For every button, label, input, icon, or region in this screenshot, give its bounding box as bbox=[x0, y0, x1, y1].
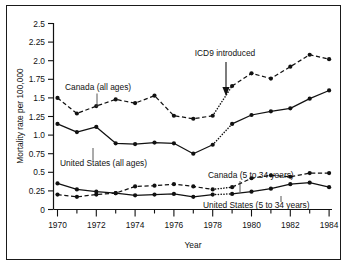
x-tick-label: 1970 bbox=[48, 220, 67, 230]
data-point-marker bbox=[230, 122, 234, 126]
x-tick-label: 1972 bbox=[87, 220, 106, 230]
data-point-marker bbox=[308, 97, 312, 101]
icd9-annotation-label: ICD9 introduced bbox=[195, 48, 256, 58]
data-point-marker bbox=[172, 182, 176, 186]
united-states-all-ages-label: United States (all ages) bbox=[60, 158, 147, 168]
y-tick-label: 0.75 bbox=[29, 149, 46, 159]
y-tick-label: 0.25 bbox=[29, 186, 46, 196]
series-path bbox=[232, 183, 329, 194]
data-point-marker bbox=[172, 114, 176, 118]
x-tick-label: 1976 bbox=[165, 220, 184, 230]
data-point-marker bbox=[94, 190, 98, 194]
data-point-marker bbox=[191, 152, 195, 156]
y-tick-label: 1.0 bbox=[33, 130, 45, 140]
y-tick-label: 1.75 bbox=[29, 74, 46, 84]
data-point-marker bbox=[288, 65, 292, 69]
y-tick-label: 1.5 bbox=[33, 93, 45, 103]
chart-canvas: 2.5 2.25 2.0 1.75 1.5 1.25 1.0 0.75 0.5 … bbox=[0, 0, 347, 267]
series-break-path bbox=[213, 187, 232, 189]
data-point-marker bbox=[75, 130, 79, 134]
data-point-marker bbox=[75, 195, 79, 199]
data-point-marker bbox=[308, 53, 312, 57]
data-point-marker bbox=[211, 193, 215, 197]
data-point-marker bbox=[269, 76, 273, 80]
data-point-marker bbox=[249, 71, 253, 75]
x-axis-ticks bbox=[58, 210, 330, 217]
x-tick-label: 1978 bbox=[203, 220, 222, 230]
data-point-marker bbox=[55, 193, 59, 197]
data-point-marker bbox=[133, 101, 137, 105]
data-point-marker bbox=[152, 94, 156, 98]
data-point-marker bbox=[152, 140, 156, 144]
y-axis-tick-labels: 2.5 2.25 2.0 1.75 1.5 1.25 1.0 0.75 0.5 … bbox=[29, 19, 46, 215]
x-axis-title: Year bbox=[185, 240, 202, 250]
data-point-marker bbox=[191, 117, 195, 121]
data-point-marker bbox=[94, 125, 98, 129]
series-break-path bbox=[213, 194, 232, 195]
data-point-marker bbox=[152, 184, 156, 188]
data-point-marker bbox=[269, 187, 273, 191]
label-united-states-5-to-34: United States (5 to 34 years) bbox=[203, 196, 310, 210]
data-point-marker bbox=[327, 57, 331, 61]
data-point-marker bbox=[94, 104, 98, 108]
data-point-marker bbox=[75, 187, 79, 191]
series-path bbox=[232, 90, 329, 123]
icd9-annotation: ICD9 introduced bbox=[195, 48, 256, 96]
data-point-marker bbox=[230, 185, 234, 189]
data-point-marker bbox=[327, 88, 331, 92]
label-canada-all-ages: Canada (all ages) bbox=[65, 82, 131, 107]
y-axis-title: Mortality rate per 100,000 bbox=[15, 68, 25, 164]
data-point-marker bbox=[211, 143, 215, 147]
data-point-marker bbox=[114, 97, 118, 101]
data-point-marker bbox=[230, 84, 234, 88]
data-point-marker bbox=[172, 141, 176, 145]
data-point-marker bbox=[55, 122, 59, 126]
data-point-marker bbox=[211, 114, 215, 118]
data-point-marker bbox=[230, 192, 234, 196]
series-break-path bbox=[213, 124, 232, 145]
data-point-marker bbox=[211, 187, 215, 191]
y-tick-label: 2.25 bbox=[29, 37, 46, 47]
y-tick-label: 2.0 bbox=[33, 56, 45, 66]
y-tick-label: 2.5 bbox=[33, 19, 45, 29]
icd9-arrow-head-icon bbox=[222, 87, 229, 96]
x-tick-label: 1982 bbox=[281, 220, 300, 230]
data-point-marker bbox=[152, 193, 156, 197]
data-point-marker bbox=[114, 191, 118, 195]
data-point-marker bbox=[288, 106, 292, 110]
data-point-marker bbox=[288, 182, 292, 186]
data-point-marker bbox=[269, 109, 273, 113]
data-point-marker bbox=[55, 96, 59, 100]
data-point-marker bbox=[191, 184, 195, 188]
y-tick-label: 1.25 bbox=[29, 112, 46, 122]
series-path bbox=[58, 124, 213, 154]
data-point-marker bbox=[327, 171, 331, 175]
series-path bbox=[232, 55, 329, 86]
x-tick-label: 1974 bbox=[126, 220, 145, 230]
series-path bbox=[58, 96, 213, 119]
data-point-marker bbox=[133, 142, 137, 146]
data-point-marker bbox=[172, 192, 176, 196]
y-axis-ticks bbox=[48, 24, 54, 210]
data-point-marker bbox=[133, 184, 137, 188]
y-tick-label: 0 bbox=[40, 205, 45, 215]
data-point-marker bbox=[133, 193, 137, 197]
x-tick-label: 1980 bbox=[242, 220, 261, 230]
data-point-marker bbox=[191, 195, 195, 199]
series-break-path bbox=[213, 86, 232, 116]
data-point-marker bbox=[249, 113, 253, 117]
x-tick-label: 1984 bbox=[320, 220, 339, 230]
data-point-marker bbox=[75, 111, 79, 115]
label-united-states-all-ages: United States (all ages) bbox=[60, 148, 147, 168]
x-axis-tick-labels: 1970 1972 1974 1976 1978 1980 1982 1984 bbox=[48, 220, 339, 230]
data-point-marker bbox=[114, 141, 118, 145]
data-point-marker bbox=[308, 181, 312, 185]
data-point-marker bbox=[249, 190, 253, 194]
data-point-marker bbox=[55, 181, 59, 185]
canada-5-to-34-label: Canada (5 to 34 years) bbox=[208, 170, 294, 180]
canada-all-ages-label: Canada (all ages) bbox=[65, 82, 131, 92]
y-tick-label: 0.5 bbox=[33, 167, 45, 177]
united-states-5-to-34-label: United States (5 to 34 years) bbox=[203, 200, 310, 210]
data-point-marker bbox=[308, 171, 312, 175]
figure-root: 2.5 2.25 2.0 1.75 1.5 1.25 1.0 0.75 0.5 … bbox=[0, 0, 347, 267]
